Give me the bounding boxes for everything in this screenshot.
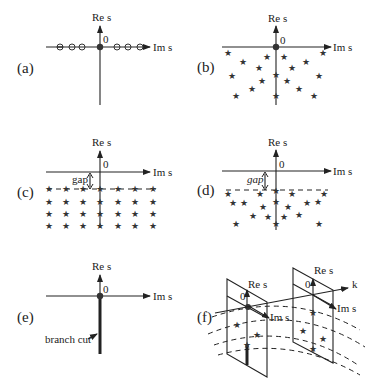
origin-label: 0 [279,158,285,170]
re-axis-label: Re s [248,278,267,290]
im-axis-label: Im s [337,302,356,314]
svg-text:★: ★ [149,184,157,194]
svg-text:★: ★ [62,197,70,207]
svg-text:★: ★ [45,209,53,219]
svg-text:★: ★ [310,91,318,101]
panel-c: (c) Re s Im s 0 gap ★★★★★★★ ★★★★★★★ ★★★★… [17,136,172,231]
svg-text:★: ★ [96,221,104,231]
im-axis-label: Im s [333,165,352,177]
svg-text:★: ★ [131,197,139,207]
svg-text:★: ★ [229,198,237,208]
panel-b: (b) Re s Im s 0 ★ ★ ★ ★ ★ ★ ★ ★ ★ ★ ★ ★ … [197,12,352,105]
svg-text:★: ★ [259,202,267,212]
svg-text:★: ★ [149,197,157,207]
svg-text:★: ★ [62,209,70,219]
panel-label-b: (b) [197,59,215,76]
origin-label: 0 [103,33,109,45]
svg-text:★: ★ [314,197,322,207]
re-axis-label: Re s [92,136,111,148]
panel-label-f: (f) [197,309,212,326]
svg-text:★: ★ [131,221,139,231]
svg-text:★: ★ [302,57,310,67]
origin-label: 0 [305,278,311,290]
svg-text:★: ★ [295,210,303,220]
svg-text:★: ★ [249,211,257,221]
im-axis-label: Im s [270,311,289,323]
im-axis-label: Im s [153,41,172,53]
gap-label: gap [247,173,264,185]
svg-text:★: ★ [96,197,104,207]
svg-text:★: ★ [272,219,280,229]
svg-text:★: ★ [258,76,266,86]
svg-text:★: ★ [272,186,280,196]
panel-label-a: (a) [17,60,34,77]
origin-label: 0 [103,158,109,170]
svg-text:★: ★ [114,197,122,207]
svg-text:★: ★ [299,326,307,336]
svg-text:★: ★ [232,219,240,229]
re-axis-label: Re s [268,12,287,24]
svg-text:★: ★ [149,221,157,231]
svg-text:★: ★ [248,84,256,94]
svg-text:★: ★ [131,184,139,194]
svg-text:★: ★ [309,308,317,318]
panel-f: (f) Re s 0 Im s Re s 0 Im s k ★ ★ ★ ★ [197,264,365,377]
svg-text:★: ★ [228,71,236,81]
svg-text:★: ★ [114,221,122,231]
re-axis-label: Re s [92,11,111,23]
svg-text:★: ★ [288,63,296,73]
svg-text:★: ★ [295,84,303,94]
panel-d: (d) Re s Im s 0 gap ★ ★ ★ ★ ★ ★ ★ ★ ★ ★ … [197,136,352,230]
svg-text:★: ★ [288,189,296,199]
svg-text:★: ★ [264,212,272,222]
svg-text:★: ★ [280,52,288,62]
svg-text:★: ★ [253,330,261,340]
origin-label: 0 [240,290,246,302]
svg-text:★: ★ [131,209,139,219]
panel-a: (a) Re s Im s 0 [17,11,172,105]
svg-text:★: ★ [283,76,291,86]
svg-text:★: ★ [233,320,241,330]
svg-text:★: ★ [284,202,292,212]
svg-text:★: ★ [240,198,248,208]
stars-grid: ★★★★★★★ ★★★★★★★ ★★★★★★★ ★★★★★★★ [45,184,157,231]
svg-text:★: ★ [45,221,53,231]
svg-text:★: ★ [62,184,70,194]
k-axis-label: k [352,278,358,290]
svg-text:★: ★ [256,189,264,199]
svg-text:★: ★ [45,197,53,207]
panel-label-c: (c) [17,184,34,201]
svg-text:★: ★ [232,91,240,101]
svg-text:★: ★ [280,212,288,222]
origin-label: 0 [280,34,286,46]
svg-text:★: ★ [319,48,327,58]
svg-text:★: ★ [114,209,122,219]
svg-text:★: ★ [45,184,53,194]
panel-label-d: (d) [197,182,215,199]
svg-text:★: ★ [96,184,104,194]
svg-text:★: ★ [79,197,87,207]
svg-text:★: ★ [263,52,271,62]
svg-text:★: ★ [319,334,327,344]
im-axis-label: Im s [333,41,352,53]
svg-text:★: ★ [79,209,87,219]
svg-text:★: ★ [239,57,247,67]
panel-e: (e) Re s Im s 0 branch cut [17,260,172,354]
svg-text:★: ★ [255,63,263,73]
svg-text:★: ★ [224,48,232,58]
svg-text:★: ★ [315,71,323,81]
origin-point [97,44,103,50]
panel-label-e: (e) [17,309,34,326]
svg-text:★: ★ [272,70,280,80]
svg-text:★: ★ [315,219,323,229]
origin-point [273,44,279,50]
im-axis-label: Im s [153,290,172,302]
branch-cut-label: branch cut [45,333,91,345]
re-axis-label: Re s [268,136,287,148]
im-axis-label: Im s [153,166,172,178]
re-axis-label: Re s [314,264,333,276]
svg-text:★: ★ [62,221,70,231]
origin-label: 0 [103,283,109,295]
svg-text:★: ★ [96,209,104,219]
svg-text:★: ★ [79,184,87,194]
